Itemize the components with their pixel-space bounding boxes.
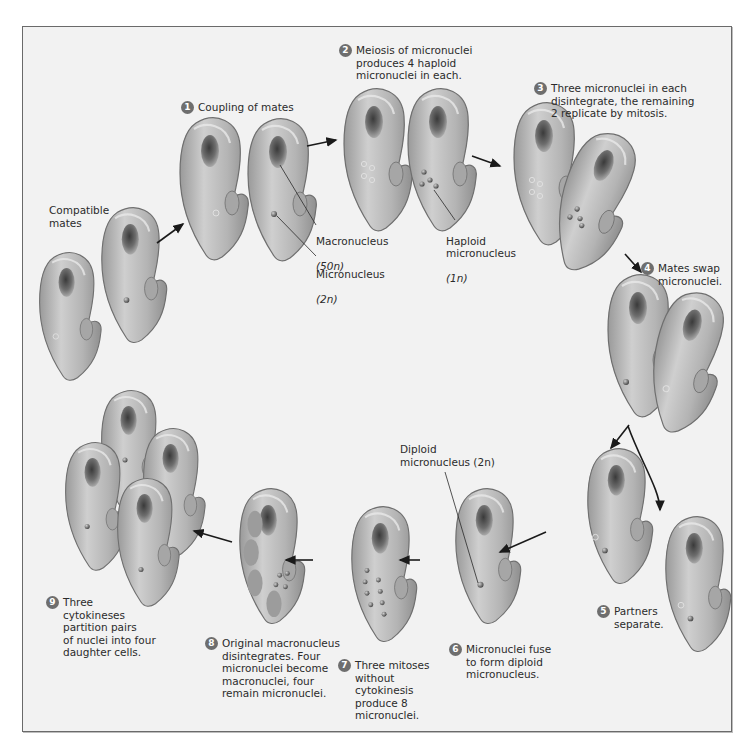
label-haploid-micronucleus: Haploid micronucleus (1n)	[446, 222, 516, 285]
step-1: 1 Coupling of mates	[181, 101, 294, 114]
label-micronucleus-ploidy: (2n)	[316, 293, 338, 305]
step-6: 6 Micronuclei fuse to form diploid micro…	[449, 643, 551, 681]
step-9: 9 Three cytokineses partition pairs of n…	[46, 596, 156, 659]
cell-new-macronuclei	[240, 489, 305, 624]
step-3-badge: 3	[534, 82, 547, 95]
step-8-text: Original macronucleus disintegrates. Fou…	[222, 637, 340, 700]
label-micronucleus-name: Micronucleus	[316, 268, 385, 280]
step-8: 8 Original macronucleus disintegrates. F…	[205, 637, 340, 700]
label-macronucleus-name: Macronucleus	[316, 235, 388, 247]
step-2-text: Meiosis of micronuclei produces 4 haploi…	[356, 44, 472, 82]
label-micronucleus: Micronucleus (2n)	[316, 255, 385, 305]
label-haploid-ploidy: (1n)	[446, 272, 468, 284]
step-9-badge: 9	[46, 596, 59, 609]
step-4-text: Mates swap micronuclei.	[658, 262, 722, 287]
cell-daughter-3	[66, 443, 127, 571]
cell-meiosis-b	[408, 89, 476, 231]
cell-meiosis-a	[344, 89, 412, 231]
step-7: 7 Three mitoses without cytokinesis prod…	[338, 659, 430, 722]
step-5-text: Partners separate.	[614, 605, 664, 630]
label-compatible-mates: Compatible mates	[49, 204, 109, 229]
label-diploid-micronucleus: Diploid micronucleus (2n)	[400, 443, 495, 468]
cell-coupling-a	[180, 118, 248, 260]
step-4-badge: 4	[641, 262, 654, 275]
cell-fused	[456, 489, 521, 624]
step-3-text: Three micronuclei in each disintegrate, …	[551, 82, 694, 120]
cell-eight-micronuclei	[352, 507, 417, 642]
step-6-badge: 6	[449, 643, 462, 656]
step-2-badge: 2	[339, 44, 352, 57]
step-1-badge: 1	[181, 101, 194, 114]
step-8-badge: 8	[205, 637, 218, 650]
step-4: 4 Mates swap micronuclei.	[641, 262, 722, 287]
cell-separated-a	[588, 449, 653, 584]
step-9-text: Three cytokineses partition pairs of nuc…	[63, 596, 156, 659]
step-2: 2 Meiosis of micronuclei produces 4 hapl…	[339, 44, 472, 82]
label-haploid-name: Haploid micronucleus	[446, 235, 516, 260]
cell-compatible-mate-a	[40, 253, 101, 381]
step-6-text: Micronuclei fuse to form diploid micronu…	[466, 643, 551, 681]
step-5-badge: 5	[597, 605, 610, 618]
step-1-text: Coupling of mates	[198, 101, 294, 114]
cell-separated-b	[666, 517, 731, 652]
cell-coupling-b	[248, 119, 316, 261]
step-7-text: Three mitoses without cytokinesis produc…	[355, 659, 430, 722]
cell-compatible-mate-b	[102, 208, 167, 343]
step-5: 5 Partners separate.	[597, 605, 664, 630]
step-3: 3 Three micronuclei in each disintegrate…	[534, 82, 694, 120]
